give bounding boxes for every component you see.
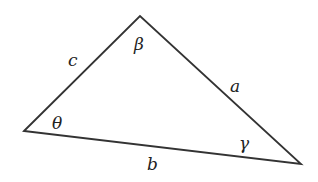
angle-label-gamma: γ	[239, 133, 250, 153]
triangle-outline	[24, 16, 301, 164]
angle-label-theta: θ	[52, 113, 62, 133]
triangle-diagram: c a b β θ γ	[0, 0, 318, 182]
side-label-b: b	[147, 154, 158, 174]
side-label-c: c	[68, 50, 78, 70]
side-label-a: a	[230, 76, 240, 96]
angle-label-beta: β	[133, 34, 144, 54]
